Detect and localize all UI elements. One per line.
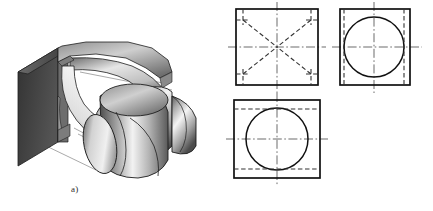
figure-root: a) xyxy=(0,0,433,211)
hidden-diagonal-lower-right xyxy=(277,47,311,74)
hidden-diagonal-upper-left xyxy=(243,20,277,47)
caption-part-a: a) xyxy=(71,184,78,194)
isometric-panel: a) xyxy=(0,0,216,211)
top-view-centerlines xyxy=(226,93,328,186)
orthographic-drawing xyxy=(216,0,433,211)
side-view xyxy=(332,2,422,93)
front-view xyxy=(228,2,326,93)
vertical-cylinder-top-face xyxy=(100,84,168,116)
hidden-diagonal-lower-left xyxy=(243,47,277,74)
side-view-centerlines xyxy=(332,2,422,93)
rear-branch-cylinder xyxy=(172,96,196,154)
hidden-diagonal-upper-right xyxy=(277,20,311,47)
isometric-drawing xyxy=(0,0,216,211)
orthographic-panel: b) xyxy=(216,0,433,211)
intersecting-cylinders xyxy=(78,84,196,178)
top-view xyxy=(226,93,328,186)
